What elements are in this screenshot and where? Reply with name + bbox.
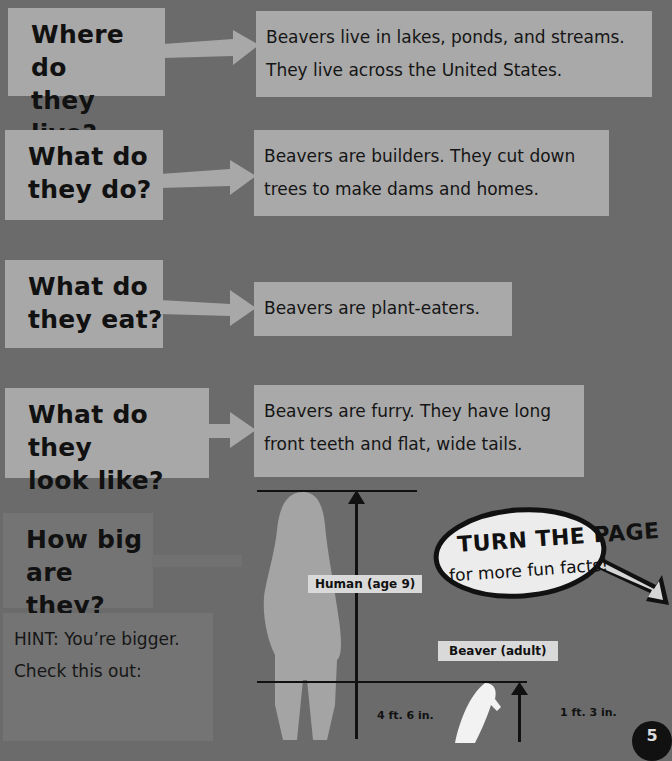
arrow-right-icon bbox=[206, 412, 256, 452]
hint-text: HINT: You’re bigger. bbox=[14, 623, 213, 655]
arrow-up-icon bbox=[511, 682, 528, 695]
arrow-right-icon bbox=[160, 160, 256, 200]
question-text: Where do bbox=[31, 18, 165, 84]
human-top-line bbox=[257, 490, 417, 492]
answer-box-look-like: Beavers are furry. They have long front … bbox=[254, 385, 584, 477]
arrow-up-icon bbox=[348, 490, 365, 504]
question-box-how-big: How big are they? bbox=[3, 513, 153, 608]
question-box-look-like: What do they look like? bbox=[5, 388, 209, 478]
question-text: How big bbox=[26, 523, 153, 556]
human-height-arrow bbox=[355, 500, 358, 739]
answer-text: Beavers are furry. They have long bbox=[264, 395, 584, 428]
faint-arrow bbox=[152, 555, 242, 567]
page-number: 5 bbox=[632, 721, 672, 761]
beaver-label: Beaver (adult) bbox=[438, 641, 558, 661]
answer-text: front teeth and flat, wide tails. bbox=[264, 428, 584, 461]
human-label: Human (age 9) bbox=[308, 575, 422, 593]
arrow-right-icon bbox=[160, 290, 256, 330]
answer-text: They live across the United States. bbox=[266, 54, 652, 87]
question-text: look like? bbox=[28, 464, 209, 497]
beaver-silhouette-icon bbox=[455, 683, 505, 743]
answer-box-what-eat: Beavers are plant-eaters. bbox=[254, 282, 512, 336]
answer-text: Beavers live in lakes, ponds, and stream… bbox=[266, 21, 652, 54]
beaver-height: 1 ft. 3 in. bbox=[560, 706, 617, 719]
answer-text: trees to make dams and homes. bbox=[264, 173, 609, 206]
question-box-what-do: What do they do? bbox=[5, 130, 163, 220]
question-text: they eat? bbox=[28, 303, 163, 336]
human-silhouette-icon bbox=[255, 490, 355, 750]
question-text: What do bbox=[28, 140, 163, 173]
question-box-where-live: Where do they live? bbox=[8, 8, 165, 96]
question-box-what-eat: What do they eat? bbox=[5, 260, 163, 348]
question-text: they do? bbox=[28, 173, 163, 206]
answer-text: Beavers are builders. They cut down bbox=[264, 140, 609, 173]
answer-box-where-live: Beavers live in lakes, ponds, and stream… bbox=[256, 11, 652, 97]
human-height: 4 ft. 6 in. bbox=[377, 709, 434, 722]
answer-box-what-do: Beavers are builders. They cut down tree… bbox=[254, 130, 609, 216]
question-text: What do bbox=[28, 270, 163, 303]
hint-text: Check this out: bbox=[14, 655, 213, 687]
arrow-right-icon bbox=[163, 30, 259, 70]
answer-text: Beavers are plant-eaters. bbox=[264, 292, 512, 325]
beaver-height-arrow bbox=[518, 692, 521, 742]
hint-box: HINT: You’re bigger. Check this out: bbox=[3, 613, 213, 741]
question-text: What do they bbox=[28, 398, 209, 464]
